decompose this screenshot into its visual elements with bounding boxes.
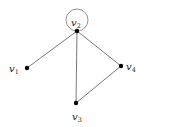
node-v1 [25,66,29,70]
label-v1: v1 [9,63,19,76]
edge-v2-v4 [77,31,121,66]
graph-diagram: v1 v2 v3 v4 [0,0,175,127]
edge-v1-v2 [27,31,77,68]
label-v3: v3 [72,111,82,124]
node-v3 [74,101,78,105]
label-v4: v4 [126,61,136,74]
label-v2: v2 [71,17,81,30]
edge-v2-v3 [76,31,77,103]
node-v4 [119,64,123,68]
edge-v3-v4 [76,66,121,103]
